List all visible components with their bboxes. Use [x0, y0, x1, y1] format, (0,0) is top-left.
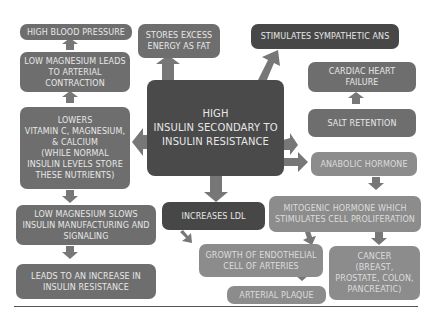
node-cardiac-heart-failure: CARDIAC HEART FAILURE — [308, 62, 416, 92]
bottom-rule — [14, 306, 418, 307]
node-label: ARTERIAL PLAQUE — [239, 290, 313, 301]
node-label: HIGH BLOOD PRESSURE — [27, 27, 125, 38]
node-label: ANABOLIC HORMONE — [320, 159, 407, 170]
node-low-magnesium-contraction: LOW MAGNESIUM LEADS TO ARTERIAL CONTRACT… — [20, 52, 130, 92]
node-endothelial-growth: GROWTH OF ENDOTHELIAL CELL OF ARTERIES — [199, 244, 323, 277]
node-label: LOWERS VITAMIN C, MAGNESIUM, & CALCIUM (… — [24, 115, 126, 181]
node-leads-insulin-resistance: LEADS TO AN INCREASE IN INSULIN RESISTAN… — [16, 264, 156, 299]
node-salt-retention: SALT RETENTION — [308, 109, 416, 137]
node-label: STORES EXCESS ENERGY AS FAT — [142, 30, 216, 52]
arrow-down-icon — [368, 177, 384, 190]
arrow-down-icon — [204, 175, 228, 202]
node-label: LOW MAGNESIUM LEADS TO ARTERIAL CONTRACT… — [24, 56, 126, 89]
node-arterial-plaque: ARTERIAL PLAQUE — [227, 286, 326, 304]
node-label: GROWTH OF ENDOTHELIAL CELL OF ARTERIES — [203, 250, 319, 272]
node-label: SALT RETENTION — [328, 118, 397, 129]
center-node-high-insulin: HIGH INSULIN SECONDARY TO INSULIN RESIST… — [147, 80, 284, 176]
center-label: HIGH INSULIN SECONDARY TO INSULIN RESIST… — [153, 107, 277, 149]
arrow-down-icon — [371, 232, 387, 245]
node-label: CARDIAC HEART FAILURE — [312, 66, 412, 88]
arrow-right-icon — [283, 152, 308, 172]
node-mitogenic-hormone: MITOGENIC HORMONE WHICH STIMULATES CELL … — [269, 196, 421, 232]
arrow-diagonal-icon — [258, 50, 280, 82]
node-low-magnesium-slows: LOW MAGNESIUM SLOWS INSULIN MANUFACTURIN… — [16, 205, 156, 245]
arrow-right-icon — [283, 133, 298, 155]
arrow-up-icon — [62, 91, 78, 103]
node-label: INCREASES LDL — [181, 211, 245, 222]
arrow-down-icon — [62, 246, 78, 259]
node-lowers-vitamins: LOWERS VITAMIN C, MAGNESIUM, & CALCIUM (… — [20, 107, 130, 189]
node-increases-ldl: INCREASES LDL — [162, 202, 265, 230]
arrow-diagonal-icon — [180, 230, 192, 243]
node-cancer: CANCER (BREAST, PROSTATE, COLON, PANCREA… — [329, 246, 420, 300]
node-stimulates-sympathetic: STIMULATES SYMPATHETIC ANS — [251, 24, 399, 49]
arrow-down-icon — [62, 190, 78, 203]
node-label: LOW MAGNESIUM SLOWS INSULIN MANUFACTURIN… — [20, 209, 152, 242]
arrow-up-icon — [348, 92, 364, 104]
node-label: MITOGENIC HORMONE WHICH STIMULATES CELL … — [273, 203, 417, 225]
node-high-blood-pressure: HIGH BLOOD PRESSURE — [20, 24, 132, 40]
arrow-up-icon — [156, 55, 180, 80]
node-label: LEADS TO AN INCREASE IN INSULIN RESISTAN… — [20, 271, 152, 293]
node-label: CANCER (BREAST, PROSTATE, COLON, PANCREA… — [333, 251, 416, 295]
arrow-down-icon — [303, 231, 316, 245]
node-label: STIMULATES SYMPATHETIC ANS — [261, 31, 390, 42]
node-stores-fat: STORES EXCESS ENERGY AS FAT — [138, 24, 220, 58]
node-anabolic-hormone: ANABOLIC HORMONE — [311, 152, 417, 176]
